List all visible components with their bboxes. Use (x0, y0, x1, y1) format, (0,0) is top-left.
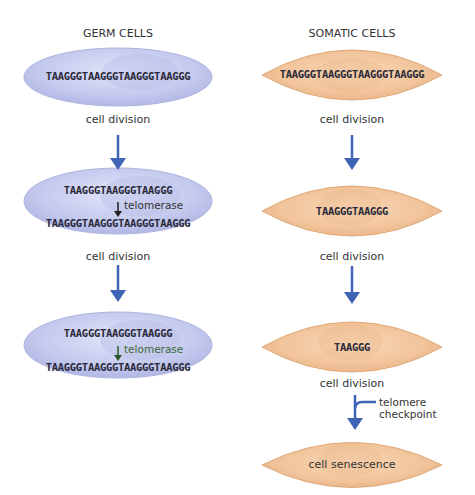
somatic-seq-3: TAAGGG (252, 341, 452, 353)
somatic-seq-2: TAAGGGTAAGGG (252, 205, 452, 217)
somatic-cells-title: SOMATIC CELLS (252, 27, 452, 40)
telomere-checkpoint-label: telomere checkpoint (379, 396, 437, 420)
cell-senescence-label: cell senescence (252, 458, 452, 471)
germ-seq-3-bottom: TAAGGGTAAGGGTAAGGGTAAGGG (18, 361, 218, 373)
telomerase-label-1: telomerase (124, 199, 183, 211)
germ-seq-3-top: TAAGGGTAAGGGTAAGGG (18, 327, 218, 339)
germ-division-label-1: cell division (18, 113, 218, 126)
checkpoint-line-1: telomere (379, 396, 437, 408)
somatic-division-label-3: cell division (252, 377, 452, 390)
arrow-germ-2 (110, 265, 126, 302)
somatic-division-label-2: cell division (252, 250, 452, 263)
germ-cells-title: GERM CELLS (18, 27, 218, 40)
arrow-somatic-2 (344, 266, 360, 304)
germ-seq-2-bottom: TAAGGGTAAGGGTAAGGGTAAGGG (18, 217, 218, 229)
arrow-germ-1 (110, 135, 126, 170)
arrow-somatic-3 (347, 395, 376, 430)
germ-seq-1: TAAGGGTAAGGGTAAGGGTAAGGG (18, 70, 218, 82)
arrow-somatic-1 (344, 135, 360, 170)
germ-seq-2-top: TAAGGGTAAGGGTAAGGG (18, 184, 218, 196)
telomerase-label-2: telomerase (124, 343, 183, 355)
checkpoint-line-2: checkpoint (379, 408, 437, 420)
somatic-seq-1: TAAGGGTAAGGGTAAGGGTAAGGG (252, 68, 452, 80)
germ-division-label-2: cell division (18, 250, 218, 263)
somatic-division-label-1: cell division (252, 113, 452, 126)
